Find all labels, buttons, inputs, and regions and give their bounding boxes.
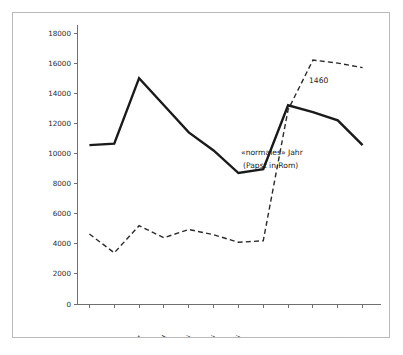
y-axis-tick-label: 8000 <box>53 179 72 188</box>
y-axis-tick-label: 14000 <box>48 89 71 98</box>
annotation-papst-in-rom-line2: (Papst in Rom) <box>243 161 298 170</box>
y-axis-tick-label: 16000 <box>48 59 71 68</box>
y-axis-tick-label: 2000 <box>53 269 72 278</box>
series-line-1460 <box>89 60 362 253</box>
y-axis-tick-label: 12000 <box>48 119 71 128</box>
annotation-normales-jahr-line1: «normales» Jahr <box>241 148 304 157</box>
x-axis-tick-label: Juli <box>230 334 243 337</box>
y-axis-tick-label: 6000 <box>53 209 72 218</box>
x-axis-tick-label: Okt. <box>303 334 318 337</box>
x-axis-tick-label: Feb. <box>104 334 119 337</box>
series-line-normales-jahr <box>89 78 362 173</box>
y-axis-tick-label: 4000 <box>53 239 72 248</box>
x-axis-tick-label: März <box>128 334 144 337</box>
x-axis-tick-label: Aug. <box>253 334 268 337</box>
x-axis-tick-label: Dez. <box>352 334 367 337</box>
x-axis-tick-label: Juni <box>204 334 218 337</box>
chart-page: 0200040006000800010000120001400016000180… <box>0 0 403 355</box>
y-axis-tick-label: 0 <box>66 300 71 309</box>
x-axis-tick-label: April <box>153 334 168 337</box>
y-axis-tick-label: 18000 <box>48 29 71 38</box>
x-axis-tick-label: Sept. <box>277 334 293 337</box>
line-chart: 0200040006000800010000120001400016000180… <box>13 13 389 337</box>
x-axis-tick-label: Jan. <box>80 334 95 337</box>
x-axis: Jan.Feb.MärzAprilMaiJuniJuliAug.Sept.Okt… <box>77 304 381 337</box>
annotation-1460: 1460 <box>309 76 328 85</box>
y-axis-tick-label: 10000 <box>48 149 71 158</box>
chart-frame: 0200040006000800010000120001400016000180… <box>12 12 390 338</box>
y-axis: 0200040006000800010000120001400016000180… <box>48 25 77 309</box>
x-axis-tick-label: Nov. <box>328 334 343 337</box>
x-axis-tick-label: Mai <box>180 334 194 337</box>
